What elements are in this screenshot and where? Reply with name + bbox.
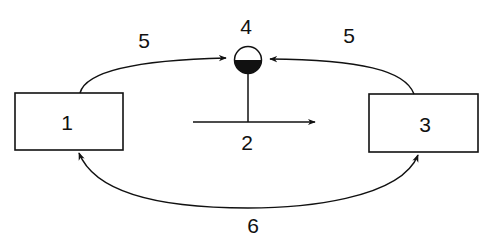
node-1-label: 1 bbox=[61, 111, 73, 134]
edge-5-left bbox=[80, 58, 226, 93]
node-box-3: 3 bbox=[369, 94, 478, 152]
diagram-canvas: 1 3 5 5 4 2 6 bbox=[0, 0, 495, 244]
edge-5-right bbox=[270, 59, 414, 94]
edge-6 bbox=[79, 153, 418, 208]
gauge-4: 4 bbox=[235, 15, 262, 122]
edge-5-right-label: 5 bbox=[343, 24, 355, 47]
gauge-4-label: 4 bbox=[240, 15, 252, 38]
edge-5-left-label: 5 bbox=[138, 29, 150, 52]
edge-6-label: 6 bbox=[247, 214, 259, 237]
node-3-label: 3 bbox=[419, 113, 431, 136]
node-box-1: 1 bbox=[15, 93, 123, 150]
arrow-2-label: 2 bbox=[241, 131, 253, 154]
